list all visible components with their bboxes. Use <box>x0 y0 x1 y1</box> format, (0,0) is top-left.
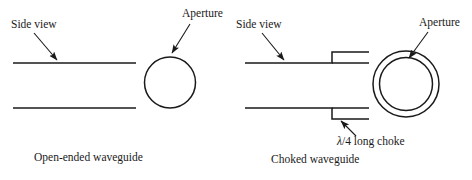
choked-lower-wall-with-choke <box>245 108 369 119</box>
choked-upper-wall-with-choke <box>245 52 369 63</box>
diagram-canvas: Side view Aperture Open-ended waveguide … <box>0 0 472 180</box>
choked-aperture-outer-circle <box>373 51 439 117</box>
choke-length-label: λ/4 long choke <box>336 135 405 148</box>
choked-side-view-leader <box>262 33 284 60</box>
panel-choked: Side view Aperture λ/4 long choke Choked… <box>236 16 460 166</box>
open-side-view-leader <box>34 33 57 60</box>
open-side-view-label: Side view <box>11 18 57 30</box>
waveguide-figure: Side view Aperture Open-ended waveguide … <box>0 0 472 180</box>
choked-aperture-label: Aperture <box>419 16 460 29</box>
open-aperture-circle <box>145 57 196 108</box>
choked-caption: Choked waveguide <box>271 153 359 166</box>
open-aperture-leader <box>172 24 190 53</box>
choked-aperture-inner-circle <box>380 58 433 111</box>
open-waveguide-walls <box>13 63 136 108</box>
open-aperture-label: Aperture <box>182 7 223 20</box>
panel-open-ended: Side view Aperture Open-ended waveguide <box>11 7 223 164</box>
open-ended-caption: Open-ended waveguide <box>34 151 143 164</box>
choke-length-text: /4 long choke <box>342 135 405 148</box>
choked-side-view-label: Side view <box>236 18 282 30</box>
choke-length-leader <box>341 121 356 136</box>
